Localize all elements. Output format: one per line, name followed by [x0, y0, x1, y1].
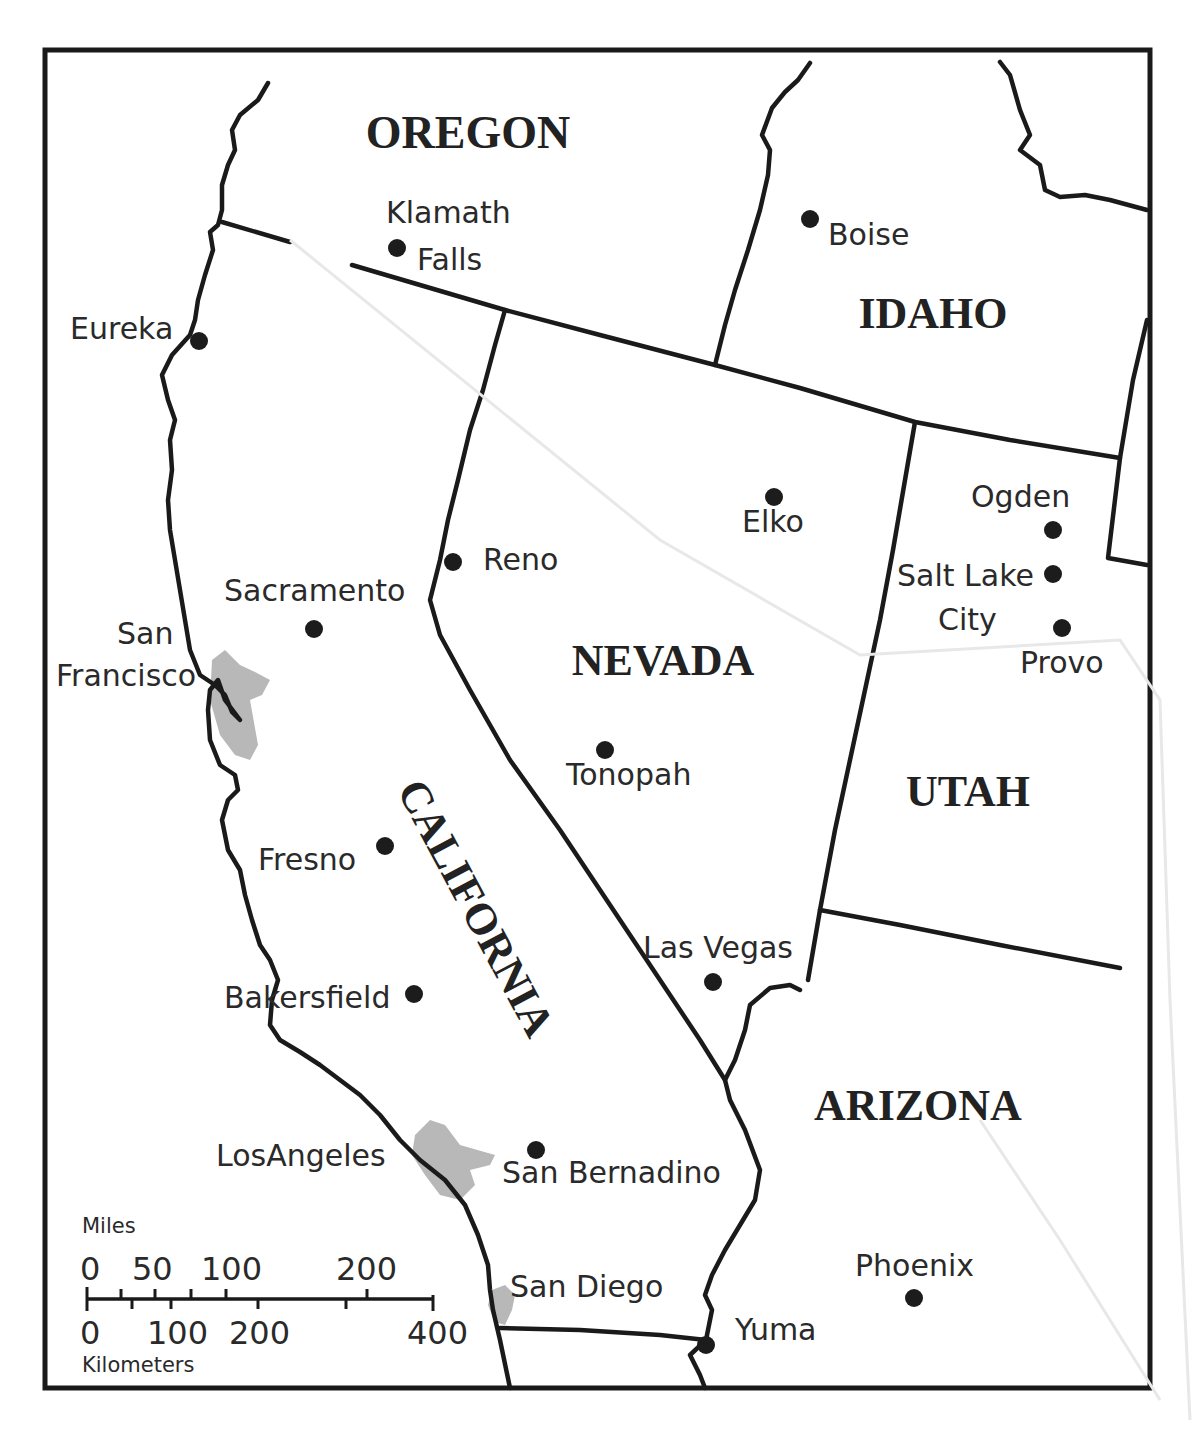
city-label-reno: Reno — [483, 542, 558, 577]
state-label-utah: UTAH — [906, 767, 1030, 816]
city-label-san-bernadino: San Bernadino — [502, 1155, 721, 1190]
map-canvas: Miles 0 50 100 200 0 100 200 400 Kilomet… — [0, 0, 1201, 1436]
city-label-city: City — [938, 602, 997, 637]
scale-km-tick: 0 — [80, 1314, 100, 1352]
scale-km-tick: 400 — [407, 1314, 468, 1352]
oregon-idaho-border — [715, 63, 810, 365]
city-label-eureka: Eureka — [70, 311, 173, 346]
city-label-salt-lake: Salt Lake — [897, 558, 1034, 593]
utah-wyoming-border — [1108, 320, 1147, 565]
city-label-sacramento: Sacramento — [224, 573, 405, 608]
state-label-nevada: NEVADA — [572, 636, 755, 685]
nevada-utah-border — [808, 422, 915, 980]
city-dot-provo — [1053, 619, 1071, 637]
city-label-bakersfield: Bakersfield — [224, 980, 390, 1015]
paper-crease — [980, 1120, 1160, 1400]
scale-km-tick: 200 — [229, 1314, 290, 1352]
city-dot-boise — [801, 210, 819, 228]
city-dot-phoenix — [905, 1289, 923, 1307]
bay-area-metro — [210, 650, 270, 760]
city-dot-ogden — [1044, 521, 1062, 539]
city-label-elko: Elko — [742, 504, 804, 539]
city-label-san-diego: San Diego — [510, 1269, 663, 1304]
city-label-los-angeles: LosAngeles — [216, 1138, 386, 1173]
city-label-tonopah: Tonopah — [565, 757, 691, 792]
city-dot-reno — [444, 553, 462, 571]
state-label-oregon: OREGON — [366, 107, 570, 158]
city-label-ogden: Ogden — [971, 479, 1070, 514]
scale-miles-label: Miles — [82, 1214, 136, 1238]
idaho-montana-border — [1000, 62, 1147, 210]
city-dot-las-vegas — [704, 973, 722, 991]
city-dot-bakersfield — [405, 985, 423, 1003]
city-dot-fresno — [376, 837, 394, 855]
city-label-klamath: Klamath — [386, 195, 511, 230]
scale-miles-tick: 50 — [132, 1250, 173, 1288]
utah-arizona-border — [820, 910, 1120, 968]
oregon-california-border — [222, 222, 290, 242]
scale-bar: Miles 0 50 100 200 0 100 200 400 Kilomet… — [80, 1214, 468, 1377]
city-label-las-vegas: Las Vegas — [643, 930, 793, 965]
state-label-idaho: IDAHO — [858, 289, 1007, 338]
city-label-yuma: Yuma — [734, 1312, 817, 1347]
scale-miles-tick: 0 — [80, 1250, 100, 1288]
city-label-san: San — [117, 616, 173, 651]
city-label-boise: Boise — [828, 217, 909, 252]
scale-miles-tick: 200 — [336, 1250, 397, 1288]
city-dot-sacramento — [305, 620, 323, 638]
city-dot-yuma — [697, 1336, 715, 1354]
city-dot-eureka — [190, 332, 208, 350]
city-label-falls: Falls — [417, 242, 482, 277]
city-dot-salt-lake-city — [1044, 565, 1062, 583]
state-label-california: CALIFORNIA — [388, 771, 564, 1045]
scale-miles-tick: 100 — [201, 1250, 262, 1288]
scale-km-tick: 100 — [147, 1314, 208, 1352]
california-mexico-border — [500, 1328, 706, 1340]
city-label-phoenix: Phoenix — [855, 1248, 974, 1283]
city-label-provo: Provo — [1020, 645, 1104, 680]
city-dot-klamath-falls — [388, 239, 406, 257]
city-label-francisco: Francisco — [56, 658, 196, 693]
city-label-fresno: Fresno — [258, 842, 356, 877]
scale-km-label: Kilometers — [82, 1353, 194, 1377]
state-label-arizona: ARIZONA — [814, 1081, 1022, 1130]
